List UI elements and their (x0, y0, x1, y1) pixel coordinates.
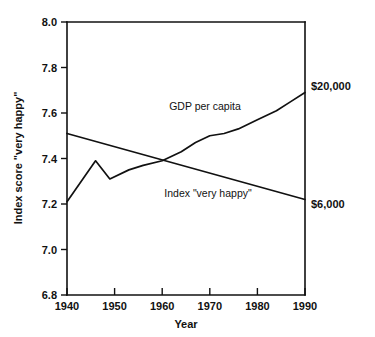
x-tick-label-1960: 1960 (150, 300, 174, 312)
end-label-index-6000: $6,000 (311, 198, 345, 210)
end-label-gdp-20000: $20,000 (311, 80, 351, 92)
y-tick-label-8.0: 8.0 (42, 16, 57, 28)
x-tick-label-1970: 1970 (198, 300, 222, 312)
x-tick-label-1950: 1950 (102, 300, 126, 312)
x-tick-label-1990: 1990 (293, 300, 317, 312)
x-tick-labels: 1940 1950 1960 1970 1980 1990 (55, 300, 317, 312)
series-label-gdp-per-capita: GDP per capita (169, 100, 241, 112)
x-axis-title: Year (174, 318, 198, 330)
y-tick-label-7.0: 7.0 (42, 244, 57, 256)
chart-canvas: 8.0 7.8 7.6 7.4 7.2 7.0 6.8 1940 1950 19… (0, 0, 375, 337)
y-tick-label-7.8: 7.8 (42, 62, 57, 74)
y-tick-marks (61, 22, 67, 295)
y-tick-labels: 8.0 7.8 7.6 7.4 7.2 7.0 6.8 (42, 16, 58, 301)
x-tick-label-1980: 1980 (245, 300, 269, 312)
series-label-index-very-happy: Index "very happy" (164, 187, 252, 199)
chart-figure: 8.0 7.8 7.6 7.4 7.2 7.0 6.8 1940 1950 19… (0, 0, 375, 337)
y-tick-label-7.2: 7.2 (42, 198, 57, 210)
axes (67, 22, 305, 295)
y-tick-label-7.6: 7.6 (42, 107, 57, 119)
x-tick-label-1940: 1940 (55, 300, 79, 312)
y-axis-title: Index score "very happy" (12, 92, 24, 225)
y-tick-label-7.4: 7.4 (42, 153, 58, 165)
x-tick-marks (67, 288, 305, 295)
